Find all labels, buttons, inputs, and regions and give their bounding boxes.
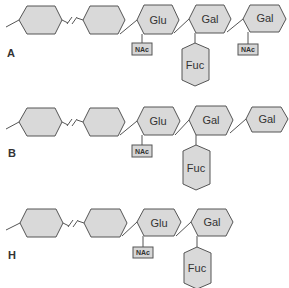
nac-label: NAc <box>136 249 150 256</box>
nac-label: NAc <box>135 46 149 53</box>
row-h: Glu NAc Gal Fuc H <box>6 209 233 288</box>
chain-break-icon <box>62 17 83 24</box>
glu-label: Glu <box>149 115 166 127</box>
gal-label-1: Gal <box>203 216 220 228</box>
sugar-residue-1 <box>19 6 62 34</box>
stub-link <box>6 122 19 129</box>
row-a: Glu NAc Gal Fuc Gal NAc A <box>6 5 286 86</box>
fuc-label: Fuc <box>188 262 207 274</box>
nac-label-2: NAc <box>241 46 255 53</box>
chain-break-icon <box>63 220 84 227</box>
chain-break-icon <box>62 119 83 126</box>
fuc-label: Fuc <box>187 162 206 174</box>
glu-label: Glu <box>150 217 167 229</box>
sugar-residue-2 <box>83 108 125 136</box>
nac-label: NAc <box>135 148 149 155</box>
blood-group-antigen-diagram: Glu NAc Gal Fuc Gal NAc A Glu NAc <box>0 0 289 288</box>
gal-label-2: Gal <box>258 113 275 125</box>
sugar-residue-1 <box>19 108 62 136</box>
gal-label-1: Gal <box>201 13 218 25</box>
sugar-residue-2 <box>84 209 127 237</box>
row-b: Glu NAc Gal Fuc Gal B <box>6 106 288 190</box>
gal-label-1: Gal <box>202 114 219 126</box>
glu-label: Glu <box>149 14 166 26</box>
gal-label-2: Gal <box>256 12 273 24</box>
stub-link <box>6 20 19 27</box>
stub-link <box>6 223 20 230</box>
sugar-residue-2 <box>83 6 125 34</box>
row-label-a: A <box>7 47 15 59</box>
row-label-b: B <box>8 147 16 159</box>
fuc-label: Fuc <box>186 59 205 71</box>
row-label-h: H <box>8 249 16 261</box>
sugar-residue-1 <box>20 209 63 237</box>
